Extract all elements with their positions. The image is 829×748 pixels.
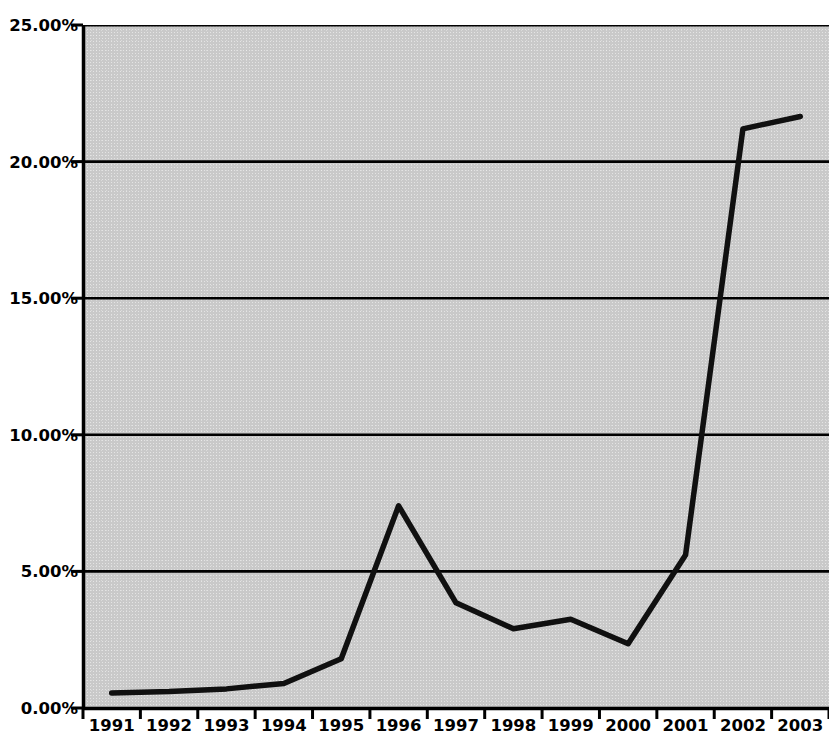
- y-axis-tick-label: 10.00%: [0, 425, 78, 444]
- x-axis-tick-label: 1994: [261, 716, 307, 735]
- y-axis-tick-label: 25.00%: [0, 16, 78, 35]
- x-axis-tick-label: 1991: [89, 716, 135, 735]
- y-axis-tick-label: 5.00%: [0, 562, 78, 581]
- x-axis-tick-label: 1996: [376, 716, 422, 735]
- x-axis-tick-label: 1997: [433, 716, 479, 735]
- x-axis-tick-label: 1995: [318, 716, 364, 735]
- x-axis-tick-label: 1993: [203, 716, 249, 735]
- x-axis-tick-label: 2002: [720, 716, 766, 735]
- x-axis-tick-label: 1992: [146, 716, 192, 735]
- y-axis-tick-labels: 0.00%5.00%10.00%15.00%20.00%25.00%: [0, 0, 78, 748]
- y-axis-tick-label: 15.00%: [0, 289, 78, 308]
- y-axis-tick-label: 0.00%: [0, 699, 78, 718]
- line-chart-figure: 0.00%5.00%10.00%15.00%20.00%25.00% 19911…: [0, 0, 829, 748]
- x-axis-tick-label: 2001: [663, 716, 709, 735]
- x-axis-tick-labels: 1991199219931994199519961997199819992000…: [83, 716, 829, 746]
- x-axis-tick-label: 2003: [777, 716, 823, 735]
- x-axis-tick-label: 1999: [548, 716, 594, 735]
- x-axis-tick-label: 1998: [490, 716, 536, 735]
- axis-svg: [0, 0, 829, 748]
- y-axis-tick-label: 20.00%: [0, 152, 78, 171]
- x-axis-tick-label: 2000: [605, 716, 651, 735]
